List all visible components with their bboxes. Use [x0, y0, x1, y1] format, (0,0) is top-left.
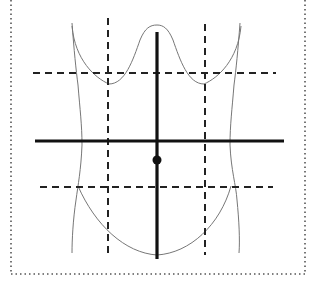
quadrant-axes — [35, 32, 284, 259]
pelvic-curve — [78, 186, 231, 255]
abdominal-regions-diagram — [0, 0, 317, 288]
left-flank-curve — [72, 23, 82, 253]
left-costal-margin — [72, 25, 157, 84]
right-costal-margin — [157, 25, 241, 84]
umbilicus-dot — [153, 156, 162, 165]
region-lines — [33, 18, 276, 255]
